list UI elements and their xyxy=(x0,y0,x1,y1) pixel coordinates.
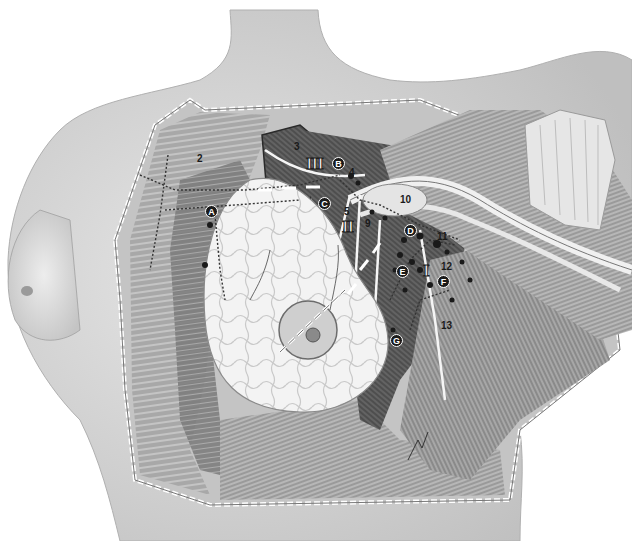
label-12: 12 xyxy=(441,262,452,272)
level-iii-label: III xyxy=(306,155,323,172)
label-f: F xyxy=(437,275,450,288)
label-5: 5 xyxy=(344,207,350,217)
level-i-label: I xyxy=(423,262,429,279)
label-g: G xyxy=(390,334,403,347)
label-3: 3 xyxy=(294,142,300,152)
label-a: A xyxy=(205,205,218,218)
label-e: E xyxy=(396,265,409,278)
label-9: 9 xyxy=(365,219,371,229)
label-13: 13 xyxy=(441,321,452,331)
level-ii-label: II xyxy=(342,218,353,235)
nipple-icon xyxy=(306,328,320,342)
contralateral-nipple-icon xyxy=(21,286,33,296)
label-10: 10 xyxy=(400,195,411,205)
label-11: 11 xyxy=(437,232,448,242)
label-c: C xyxy=(318,197,331,210)
label-2: 2 xyxy=(197,154,203,164)
label-b: B xyxy=(332,157,345,170)
anatomical-figure: 2 3 4 5 9 10 11 12 13 A B C D E F G I II… xyxy=(0,0,632,541)
illustration-canvas xyxy=(0,0,632,541)
label-d: D xyxy=(404,224,417,237)
label-4: 4 xyxy=(349,168,355,178)
